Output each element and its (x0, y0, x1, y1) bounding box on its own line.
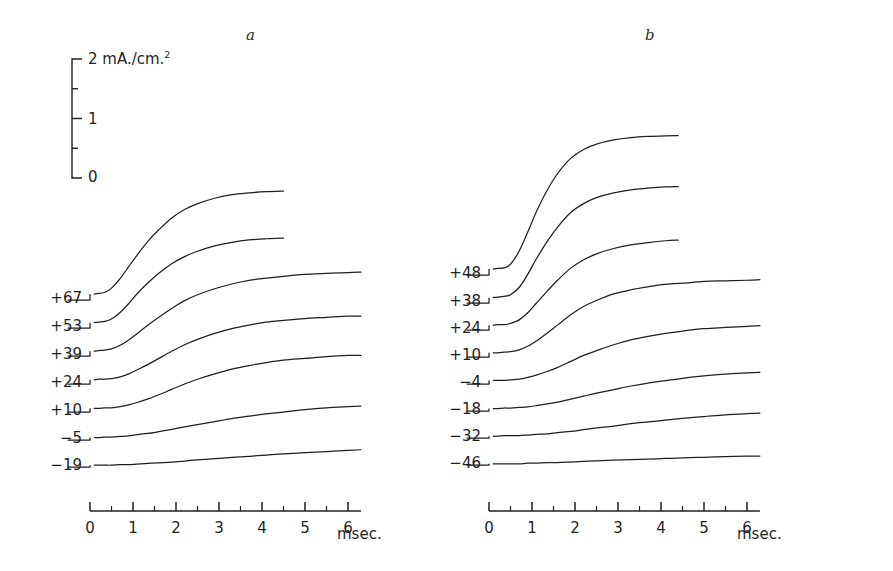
trace-b-+48 (467, 136, 678, 275)
trace-b-+38 (467, 187, 678, 303)
x-axis-panel-b (489, 502, 760, 511)
figure-root: a b 2 mA./cm.2 1 0 msec. msec. +67+53+39… (0, 0, 893, 571)
axis-tick-label-a-4: 4 (242, 519, 282, 537)
axis-tick-label-a-0: 0 (70, 519, 110, 537)
trace-label-a--5: −5 (26, 429, 82, 447)
trace-label-b-+10: +10 (425, 346, 481, 364)
trace-b--18 (467, 372, 760, 411)
axis-tick-label-b-6: 6 (727, 519, 767, 537)
trace-b--46 (467, 456, 760, 465)
trace-label-b--18: −18 (425, 400, 481, 418)
trace-label-a--19: −19 (26, 456, 82, 474)
trace-label-a-+39: +39 (26, 345, 82, 363)
trace-label-b-+48: +48 (425, 264, 481, 282)
axis-tick-label-b-3: 3 (598, 519, 638, 537)
trace-a-+67 (68, 191, 284, 300)
x-axis-panel-a (90, 502, 361, 511)
axis-tick-label-b-2: 2 (555, 519, 595, 537)
trace-label-a-+53: +53 (26, 317, 82, 335)
axis-tick-label-a-2: 2 (156, 519, 196, 537)
axis-tick-label-a-3: 3 (199, 519, 239, 537)
axis-tick-label-b-5: 5 (684, 519, 724, 537)
trace-label-b--32: −32 (425, 427, 481, 445)
trace-b-+24 (467, 240, 678, 330)
axis-tick-label-a-6: 6 (328, 519, 368, 537)
trace-label-a-+10: +10 (26, 401, 82, 419)
vertical-scale-bar (72, 59, 82, 178)
trace-label-b-+24: +24 (425, 319, 481, 337)
trace-label-b--46: −46 (425, 454, 481, 472)
trace-label-b--4: −4 (425, 373, 481, 391)
trace-a-+39 (68, 272, 361, 356)
axis-tick-label-a-5: 5 (285, 519, 325, 537)
trace-a--5 (68, 406, 361, 440)
axis-tick-label-b-0: 0 (469, 519, 509, 537)
trace-a-+10 (68, 355, 361, 412)
trace-a-+53 (68, 238, 284, 328)
trace-label-b-+38: +38 (425, 292, 481, 310)
axis-tick-label-a-1: 1 (113, 519, 153, 537)
trace-label-a-+67: +67 (26, 289, 82, 307)
axis-tick-label-b-4: 4 (641, 519, 681, 537)
trace-b--32 (467, 413, 760, 438)
trace-label-a-+24: +24 (26, 373, 82, 391)
trace-a--19 (68, 450, 361, 467)
figure-canvas (0, 0, 893, 571)
axis-tick-label-b-1: 1 (512, 519, 552, 537)
